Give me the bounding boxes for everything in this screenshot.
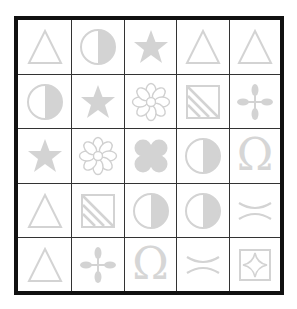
grid-cell[interactable]	[18, 75, 72, 129]
grid-cell[interactable]	[72, 238, 125, 291]
triangle-outline-icon	[25, 27, 65, 67]
facing-arcs-icon	[183, 245, 223, 285]
grid-cell[interactable]	[230, 238, 280, 291]
star-icon	[25, 136, 65, 176]
grid-cell[interactable]	[72, 75, 125, 129]
grid-cell[interactable]	[230, 75, 280, 129]
grid-cell[interactable]	[230, 184, 280, 238]
grid-cell[interactable]: Ω	[230, 129, 280, 184]
grid-cell[interactable]	[125, 184, 177, 238]
quatrefoil-icon	[131, 136, 171, 176]
grid-cell[interactable]	[177, 75, 230, 129]
flower-outline-icon	[131, 82, 171, 122]
triangle-outline-icon	[183, 27, 223, 67]
half-circle-icon	[78, 27, 118, 67]
grid-cell[interactable]	[72, 184, 125, 238]
striped-square-icon	[183, 82, 223, 122]
grid-cell[interactable]	[18, 238, 72, 291]
grid-cell[interactable]	[125, 20, 177, 75]
grid-cell[interactable]	[177, 184, 230, 238]
grid-cell[interactable]	[125, 129, 177, 184]
star-icon	[131, 27, 171, 67]
four-petal-cross-icon	[78, 245, 118, 285]
grid-cell[interactable]	[72, 20, 125, 75]
four-petal-cross-icon	[235, 82, 275, 122]
triangle-outline-icon	[235, 27, 275, 67]
grid-cell[interactable]: Ω	[125, 238, 177, 291]
grid-cell[interactable]	[177, 20, 230, 75]
grid-cell[interactable]	[177, 238, 230, 291]
facing-arcs-icon	[235, 191, 275, 231]
striped-square-icon	[78, 191, 118, 231]
star-icon	[78, 82, 118, 122]
half-circle-icon	[131, 191, 171, 231]
diamond-in-square-icon	[235, 245, 275, 285]
omega-icon: Ω	[132, 242, 168, 286]
triangle-outline-icon	[25, 191, 65, 231]
symbol-grid-board: ΩΩ	[14, 16, 284, 295]
grid-cell[interactable]	[18, 129, 72, 184]
grid-cell[interactable]	[125, 75, 177, 129]
flower-outline-icon	[78, 136, 118, 176]
grid-cell[interactable]	[230, 20, 280, 75]
half-circle-icon	[25, 82, 65, 122]
grid-cell[interactable]	[18, 184, 72, 238]
omega-icon: Ω	[237, 133, 273, 177]
triangle-outline-icon	[25, 245, 65, 285]
grid-cell[interactable]	[177, 129, 230, 184]
half-circle-icon	[183, 191, 223, 231]
half-circle-icon	[183, 136, 223, 176]
grid-cell[interactable]	[72, 129, 125, 184]
grid-cell[interactable]	[18, 20, 72, 75]
